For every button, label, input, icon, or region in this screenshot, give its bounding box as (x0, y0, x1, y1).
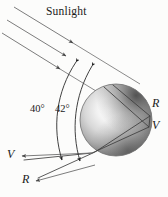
sunlight-label: Sunlight (46, 6, 87, 18)
sunlight-ray-2 (7, 20, 66, 56)
angle-label-42-degrees: 42° (55, 104, 70, 115)
red-ray-label-left: R (22, 173, 29, 185)
red-exit-ray (36, 165, 95, 181)
diagram-canvas (0, 0, 168, 197)
violet-ray-label-left: V (7, 148, 14, 160)
sunlight-ray-3 (2, 33, 60, 69)
incident-ray-to-drop-upper (73, 43, 140, 84)
red-ray-label-right: R (152, 97, 159, 109)
violet-ray-label-right: V (152, 119, 159, 131)
rainbow-raindrop-diagram: Sunlight 40° 42° R V V R (0, 0, 168, 197)
angle-label-40-degrees: 40° (30, 104, 45, 115)
